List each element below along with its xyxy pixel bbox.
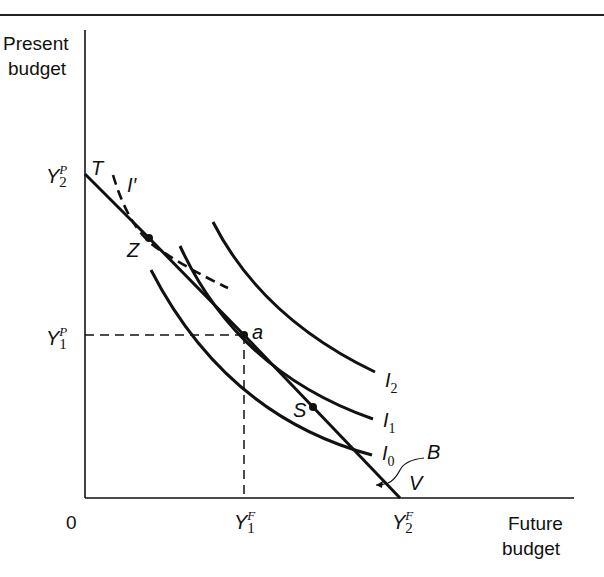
x-tick-Y2F: YF2 bbox=[392, 512, 413, 536]
origin-label: 0 bbox=[66, 512, 77, 533]
label-I2: I2 bbox=[385, 370, 398, 393]
label-Z: Z bbox=[127, 240, 139, 260]
y-tick-Y2P: YP2 bbox=[46, 166, 67, 190]
x-axis-title-line1: Future bbox=[508, 512, 563, 535]
label-I-prime: I′ bbox=[127, 175, 136, 195]
label-V: V bbox=[409, 473, 422, 493]
indifference-curve-I2 bbox=[213, 222, 375, 372]
label-I1: I1 bbox=[383, 410, 396, 433]
label-a: a bbox=[252, 322, 263, 342]
y-tick-Y1P: YP1 bbox=[46, 328, 67, 352]
budget-diagram bbox=[0, 0, 604, 577]
point-Z bbox=[145, 234, 153, 242]
label-S: S bbox=[293, 400, 306, 420]
y-axis-title-line2: budget bbox=[8, 57, 66, 80]
label-T: T bbox=[91, 158, 103, 178]
point-a bbox=[240, 331, 248, 339]
B-pointer-arrowhead bbox=[376, 481, 383, 488]
label-B: B bbox=[427, 442, 440, 462]
indifference-curve-I1 bbox=[180, 246, 373, 419]
y-axis-title-line1: Present bbox=[3, 32, 68, 55]
indifference-curve-I0 bbox=[151, 270, 372, 455]
label-I0: I0 bbox=[382, 443, 395, 466]
point-S bbox=[309, 403, 317, 411]
x-tick-Y1F: YF1 bbox=[234, 512, 255, 536]
x-axis-title-line2: budget bbox=[502, 537, 560, 560]
